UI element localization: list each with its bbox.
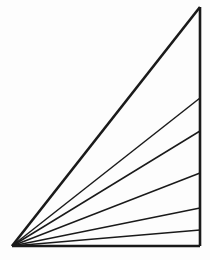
triangle-fan-figure xyxy=(0,0,210,260)
